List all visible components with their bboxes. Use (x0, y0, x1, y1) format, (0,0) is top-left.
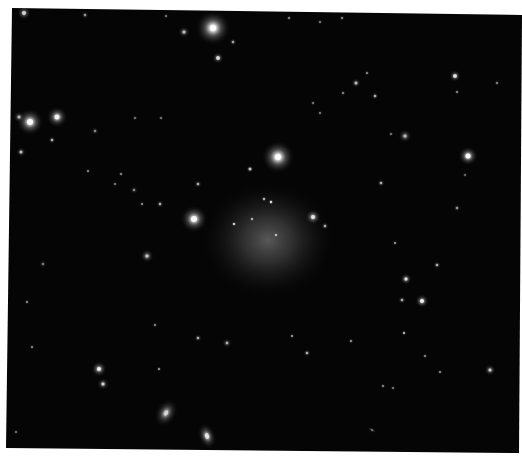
celestial-source (24, 299, 30, 305)
celestial-source (140, 249, 154, 263)
celestial-source (380, 383, 386, 389)
celestial-source (130, 186, 138, 194)
celestial-source (212, 52, 224, 64)
celestial-source (494, 80, 500, 86)
celestial-source (289, 333, 295, 339)
celestial-source (163, 13, 169, 19)
celestial-source (46, 106, 68, 128)
celestial-source (273, 232, 279, 238)
celestial-source (261, 196, 267, 202)
celestial-source (268, 199, 274, 205)
celestial-source (458, 146, 478, 166)
celestial-source (178, 26, 190, 38)
celestial-source (156, 200, 164, 208)
celestial-source (437, 369, 443, 375)
celestial-source (91, 361, 107, 377)
celestial-source (229, 38, 237, 46)
celestial-source (317, 19, 323, 25)
celestial-source (401, 330, 407, 336)
intracluster-light-halo (200, 180, 336, 300)
celestial-source (231, 221, 237, 227)
celestial-source (398, 129, 412, 143)
celestial-source (449, 70, 461, 82)
celestial-source (390, 385, 396, 391)
celestial-source (484, 364, 496, 376)
celestial-source (194, 334, 202, 342)
celestial-source (139, 201, 145, 207)
celestial-source (194, 180, 202, 188)
celestial-source (321, 222, 329, 230)
celestial-source (180, 205, 208, 233)
celestial-source (392, 240, 398, 246)
celestial-source (305, 209, 321, 225)
celestial-source (303, 349, 311, 357)
celestial-source (39, 260, 47, 268)
celestial-source (97, 378, 109, 390)
celestial-source (118, 171, 124, 177)
galaxy-cluster-image (0, 0, 522, 461)
celestial-source (398, 296, 406, 304)
celestial-source (351, 78, 361, 88)
celestial-source (246, 165, 254, 173)
celestial-source (195, 10, 231, 46)
celestial-source (453, 204, 461, 212)
celestial-source (348, 338, 354, 344)
celestial-source (462, 172, 468, 178)
celestial-source (388, 131, 394, 137)
celestial-source (286, 15, 292, 21)
celestial-source (364, 70, 370, 76)
celestial-source (222, 338, 232, 348)
celestial-source (91, 127, 99, 135)
celestial-source (13, 429, 19, 435)
celestial-source (377, 179, 385, 187)
celestial-source (310, 100, 316, 106)
celestial-source (158, 115, 164, 121)
celestial-source (16, 147, 26, 157)
celestial-source (132, 115, 138, 121)
celestial-source (422, 353, 428, 359)
celestial-source (433, 261, 441, 269)
celestial-source (156, 366, 162, 372)
celestial-source (340, 90, 346, 96)
celestial-source (112, 181, 118, 187)
celestial-source (152, 322, 158, 328)
celestial-source (48, 136, 56, 144)
celestial-source (400, 273, 412, 285)
celestial-source (81, 11, 89, 19)
celestial-source (317, 110, 323, 116)
celestial-source (29, 344, 35, 350)
celestial-source (339, 15, 345, 21)
celestial-source (454, 89, 460, 95)
celestial-source (85, 168, 91, 174)
celestial-source (13, 111, 25, 123)
celestial-source (415, 294, 429, 308)
celestial-source (261, 140, 295, 174)
celestial-source (371, 92, 379, 100)
celestial-source (249, 216, 255, 222)
